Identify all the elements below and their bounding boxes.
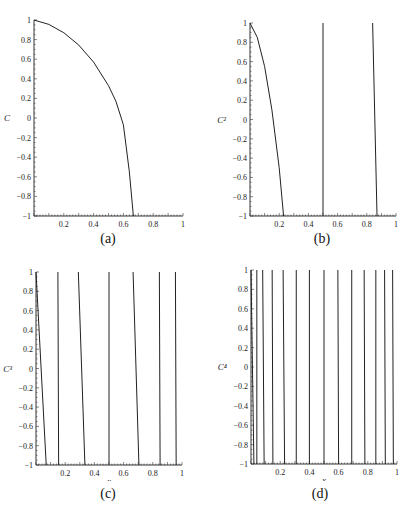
x-tick-label: 0.8 (148, 220, 158, 228)
plot-b-svg: 10.80.60.40.20−0.2−0.4−0.6−0.8−10.20.40.… (208, 0, 415, 228)
x-tick-label: 0.8 (362, 220, 372, 228)
curve (373, 23, 377, 216)
y-tick-label: −0.4 (233, 402, 248, 411)
y-tick-label: −0.8 (18, 442, 33, 451)
y-tick-label: −0.6 (18, 422, 33, 431)
curve (159, 272, 160, 465)
x-tick-label: 0.2 (60, 469, 70, 478)
y-tick-label: 1 (27, 16, 31, 25)
y-axis-label: C (4, 113, 11, 123)
y-tick-label: 0.8 (238, 285, 248, 294)
x-tick-label: 0.2 (275, 468, 285, 477)
y-tick-label: −0.8 (233, 441, 248, 450)
y-axis-label: C² (217, 115, 226, 125)
y-tick-label: 0 (243, 116, 247, 125)
x-tick-label: 0.4 (89, 469, 99, 478)
y-tick-label: −1 (239, 460, 248, 469)
y-tick-label: 0.2 (21, 94, 31, 103)
x-axis-label: x (321, 475, 326, 481)
x-tick-label: 0.6 (118, 220, 128, 228)
plot-b: 10.80.60.40.20−0.2−0.4−0.6−0.8−10.20.40.… (208, 0, 415, 232)
curve (385, 270, 386, 464)
curve (263, 270, 264, 464)
y-tick-label: 0.6 (237, 58, 247, 67)
x-tick-label: 0.6 (333, 220, 343, 228)
x-tick-label: 0.2 (274, 220, 284, 228)
y-tick-label: −0.4 (232, 154, 247, 163)
x-tick-label: 0.4 (304, 468, 314, 477)
y-tick-label: −0.8 (16, 192, 31, 201)
y-tick-label: 0 (27, 114, 31, 123)
curve (272, 270, 273, 464)
x-tick-label: 1 (180, 469, 184, 478)
plot-d-svg: 10.80.60.40.20−0.2−0.4−0.6−0.8−10.20.40.… (208, 256, 415, 481)
plot-d: 10.80.60.40.20−0.2−0.4−0.6−0.8−10.20.40.… (208, 256, 415, 485)
x-tick-label: 0.2 (59, 220, 69, 228)
curve (364, 270, 365, 464)
y-tick-label: −0.4 (18, 403, 33, 412)
y-tick-label: −1 (24, 461, 33, 470)
y-tick-label: −0.6 (232, 173, 247, 182)
y-tick-label: 0.2 (238, 344, 248, 353)
y-tick-label: 0.4 (21, 75, 31, 84)
y-tick-label: 0.4 (237, 77, 247, 86)
curve (34, 20, 133, 216)
y-axis-label: C⁴ (218, 362, 227, 372)
x-tick-label: 0.6 (334, 468, 344, 477)
y-tick-label: −1 (22, 212, 31, 221)
curve (393, 270, 394, 464)
y-tick-label: −0.6 (16, 173, 31, 182)
y-tick-label: 0.4 (238, 324, 248, 333)
plot-c-svg: 10.80.60.40.20−0.2−0.4−0.6−0.8−10.20.40.… (0, 256, 207, 481)
y-tick-label: −0.2 (233, 382, 248, 391)
y-tick-label: −1 (238, 212, 247, 221)
x-tick-label: 1 (395, 468, 399, 477)
curve (283, 270, 284, 464)
y-tick-label: 0.8 (237, 38, 247, 47)
y-tick-label: 0 (29, 365, 33, 374)
y-tick-label: 1 (29, 268, 33, 277)
plot-c: 10.80.60.40.20−0.2−0.4−0.6−0.8−10.20.40.… (0, 256, 207, 485)
x-tick-label: 0.4 (303, 220, 313, 228)
curve (175, 272, 176, 465)
curve (133, 272, 139, 465)
x-tick-label: 0.8 (148, 469, 158, 478)
y-tick-label: 0.8 (23, 287, 33, 296)
y-axis-label: C³ (3, 364, 12, 374)
x-tick-label: 0.8 (363, 468, 373, 477)
y-tick-label: 1 (243, 19, 247, 28)
x-axis-label: x (106, 476, 111, 481)
y-tick-label: 0.6 (21, 55, 31, 64)
caption-a: (a) (88, 231, 128, 247)
y-tick-label: 0.6 (23, 307, 33, 316)
x-tick-label: 1 (181, 220, 185, 228)
x-axis-label: x (106, 227, 111, 228)
y-tick-label: −0.8 (232, 193, 247, 202)
curve (250, 23, 284, 216)
curve (58, 272, 59, 465)
y-tick-label: 0 (244, 363, 248, 372)
curve (338, 270, 339, 464)
plot-a: 10.80.60.40.20−0.2−0.4−0.6−0.8−10.20.40.… (0, 0, 207, 232)
curve (78, 272, 85, 465)
y-tick-label: −0.2 (18, 384, 33, 393)
y-tick-label: 0.4 (23, 326, 33, 335)
y-tick-label: 0.6 (238, 305, 248, 314)
y-tick-label: 0.8 (21, 36, 31, 45)
x-axis-label: x (320, 227, 325, 228)
x-tick-label: 1 (394, 220, 398, 228)
y-tick-label: 0.2 (237, 96, 247, 105)
y-tick-label: −0.2 (16, 134, 31, 143)
y-tick-label: 0.2 (23, 345, 33, 354)
caption-d: (d) (300, 486, 340, 502)
caption-b: (b) (302, 231, 342, 247)
x-tick-label: 0.6 (119, 469, 129, 478)
y-tick-label: −0.4 (16, 153, 31, 162)
caption-c: (c) (88, 486, 128, 502)
y-tick-label: −0.6 (233, 421, 248, 430)
y-tick-label: 1 (244, 266, 248, 275)
y-tick-label: −0.2 (232, 135, 247, 144)
plot-a-svg: 10.80.60.40.20−0.2−0.4−0.6−0.8−10.20.40.… (0, 0, 207, 228)
x-tick-label: 0.4 (89, 220, 99, 228)
